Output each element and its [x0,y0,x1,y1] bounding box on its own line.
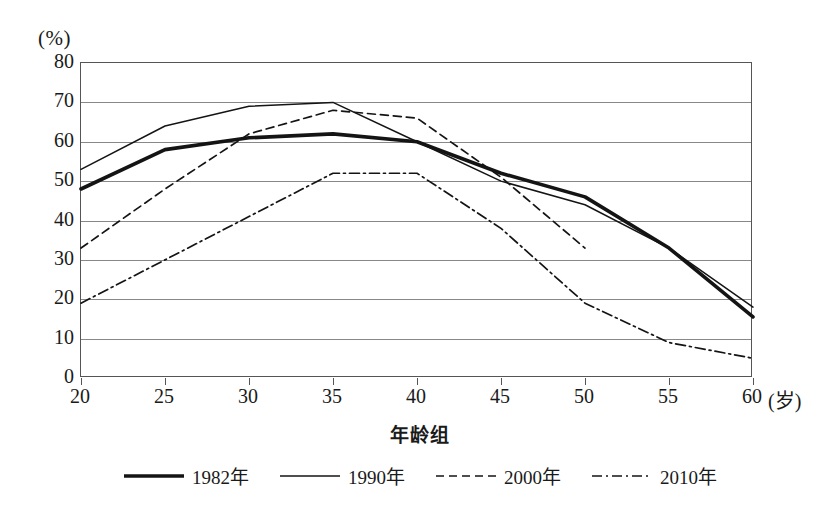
chart-figure: (%) (岁) 01020304050607080 20253035404550… [0,0,840,510]
x-axis-tick-mark [417,378,418,385]
x-axis-tick-mark [669,378,670,385]
legend-swatch-icon [591,470,653,482]
legend-label: 2000年 [504,462,561,489]
series-line-1990年 [81,102,753,307]
x-axis-tick-mark [333,378,334,385]
x-axis-tick-mark [501,378,502,385]
legend-item-1982年: 1982年 [123,462,249,489]
legend-label: 2010年 [660,462,717,489]
y-axis-tick-label: 20 [30,287,74,307]
x-axis-tick-label: 40 [386,386,446,406]
x-axis-tick-label: 45 [470,386,530,406]
legend-label: 1982年 [192,462,249,489]
x-axis-tick-label: 30 [218,386,278,406]
series-line-2010年 [81,173,753,358]
x-axis-tick-label: 20 [50,386,110,406]
legend-label: 1990年 [348,462,405,489]
x-axis-tick-label: 60 [722,386,782,406]
legend-item-1990年: 1990年 [279,462,405,489]
y-axis-tick-label: 70 [30,90,74,110]
x-axis-tick-mark [165,378,166,385]
y-axis-tick-label: 40 [30,209,74,229]
legend-swatch-icon [123,470,185,482]
legend-swatch-icon [279,470,341,482]
y-axis-unit-label: (%) [38,26,71,51]
y-axis-tick-label: 10 [30,327,74,347]
y-axis-tick-label: 0 [30,366,74,386]
x-axis-tick-mark [585,378,586,385]
x-axis-tick-mark [753,378,754,385]
legend-swatch-icon [435,470,497,482]
x-axis-title: 年龄组 [0,420,840,447]
x-axis-tick-label: 25 [134,386,194,406]
y-axis-tick-label: 80 [30,51,74,71]
x-axis-tick-mark [81,378,82,385]
y-axis-tick-label: 50 [30,169,74,189]
x-axis-tick-mark [249,378,250,385]
y-axis-tick-label: 60 [30,130,74,150]
series-lines [81,63,753,378]
x-axis-tick-label: 35 [302,386,362,406]
legend-item-2010年: 2010年 [591,462,717,489]
chart-legend: 1982年1990年2000年2010年 [0,462,840,489]
y-axis-tick-label: 30 [30,248,74,268]
x-axis-tick-label: 55 [638,386,698,406]
legend-item-2000年: 2000年 [435,462,561,489]
plot-area [80,62,752,377]
series-line-1982年 [81,134,753,317]
x-axis-tick-label: 50 [554,386,614,406]
